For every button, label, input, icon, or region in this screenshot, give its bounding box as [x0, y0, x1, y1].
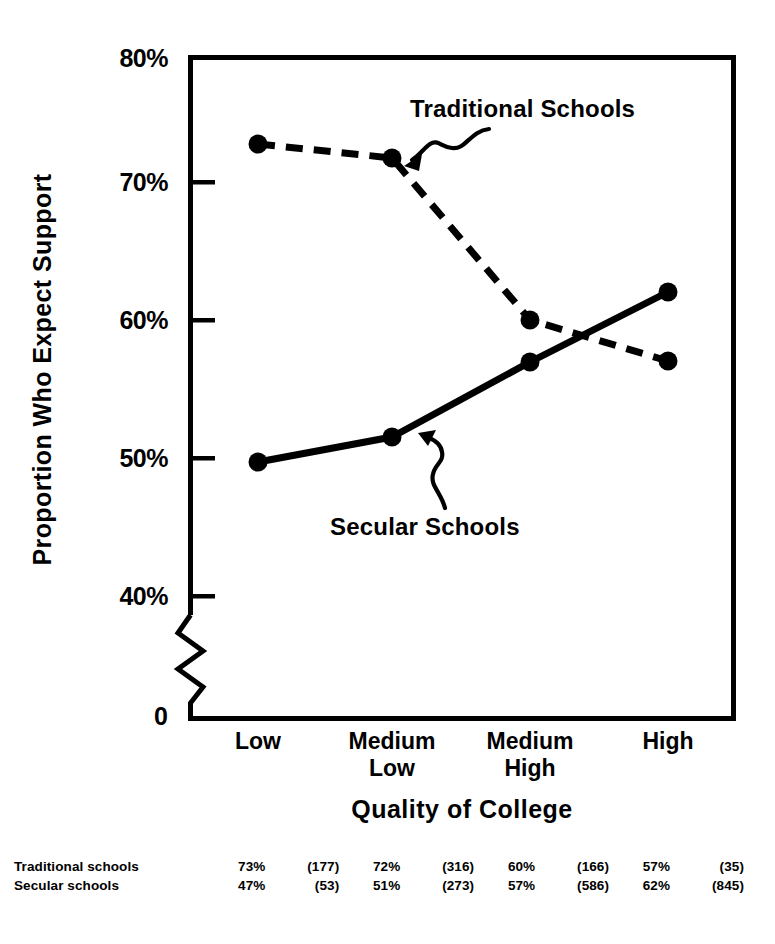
y-axis-ticks	[193, 180, 215, 599]
y-tick-label-60: 60%	[76, 306, 168, 335]
series-label-traditional-schools: Traditional Schools	[410, 95, 635, 123]
table-cell-n: (586)	[535, 876, 609, 895]
y-tick-label-40: 40%	[76, 582, 168, 611]
annotation-arrow-traditional	[404, 129, 489, 171]
y-tick-label-0: 0	[108, 702, 168, 731]
table-cell-n: (316)	[400, 857, 474, 876]
table-cell-pct: 60%	[474, 857, 535, 876]
y-tick-label-70: 70%	[76, 168, 168, 197]
y-axis-break-zigzag	[178, 615, 203, 718]
x-tick-label-high: High	[578, 728, 758, 755]
table-cell-n: (35)	[670, 857, 744, 876]
x-axis-title: Quality of College	[188, 795, 736, 824]
series-label-secular-schools: Secular Schools	[330, 513, 520, 541]
series-secular-schools	[249, 283, 678, 472]
table-cell-n: (166)	[535, 857, 609, 876]
table-row: Traditional schools 73% (177) 72% (316) …	[14, 857, 744, 876]
table-cell-n: (53)	[265, 876, 339, 895]
data-table-body: Traditional schools 73% (177) 72% (316) …	[14, 857, 744, 895]
table-cell-pct: 72%	[339, 857, 400, 876]
table-row-label: Secular schools	[14, 876, 204, 895]
x-tick-high-line1: High	[578, 728, 758, 755]
data-table-grid: Traditional schools 73% (177) 72% (316) …	[14, 857, 744, 895]
table-cell-n: (845)	[670, 876, 744, 895]
plot-frame	[188, 55, 736, 721]
table-cell-n: (273)	[400, 876, 474, 895]
table-cell-pct: 57%	[474, 876, 535, 895]
series-traditional-schools	[249, 135, 678, 371]
series-traditional-markers	[249, 135, 678, 371]
table-row: Secular schools 47% (53) 51% (273) 57% (…	[14, 876, 744, 895]
y-tick-label-80: 80%	[76, 44, 168, 73]
table-cell-n: (177)	[265, 857, 339, 876]
chart-figure: Proportion Who Expect Support 80% 70% 60…	[0, 0, 775, 944]
table-cell-pct: 47%	[204, 876, 265, 895]
annotation-arrow-secular	[418, 430, 445, 508]
y-tick-label-50: 50%	[76, 444, 168, 473]
table-cell-pct: 62%	[609, 876, 670, 895]
table-cell-pct: 51%	[339, 876, 400, 895]
series-secular-markers	[249, 283, 678, 472]
table-cell-pct: 57%	[609, 857, 670, 876]
data-table: Traditional schools 73% (177) 72% (316) …	[14, 857, 744, 895]
x-tick-medium-high-line2: High	[440, 755, 620, 782]
y-axis-title: Proportion Who Expect Support	[28, 160, 57, 580]
table-cell-pct: 73%	[204, 857, 265, 876]
table-row-label: Traditional schools	[14, 857, 204, 876]
